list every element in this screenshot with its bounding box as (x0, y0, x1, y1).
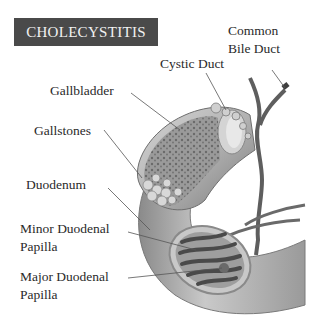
label-gallstones: Gallstones (34, 122, 91, 140)
label-common-bile-duct: Common Bile Duct (228, 22, 280, 58)
label-line: Major Duodenal (20, 268, 109, 286)
label-line: Minor Duodenal (20, 220, 110, 238)
label-major-duodenal-papilla: Major Duodenal Papilla (20, 268, 109, 304)
label-gallbladder: Gallbladder (50, 82, 114, 100)
label-duodenum: Duodenum (26, 176, 86, 194)
title-text: CHOLECYSTITIS (26, 24, 146, 41)
label-minor-duodenal-papilla: Minor Duodenal Papilla (20, 220, 110, 256)
label-line: Common (228, 22, 280, 40)
label-line: Papilla (20, 286, 109, 304)
gallbladder (137, 103, 255, 210)
label-line: Bile Duct (228, 40, 280, 58)
title-banner: CHOLECYSTITIS (14, 18, 158, 46)
label-cystic-duct: Cystic Duct (160, 55, 224, 73)
label-line: Papilla (20, 238, 110, 256)
